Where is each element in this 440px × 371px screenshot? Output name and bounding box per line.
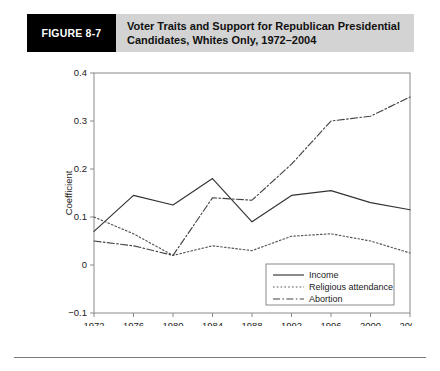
- legend-label-religious-attendance: Religious attendance: [309, 282, 393, 292]
- x-axis-tick-label: 1972: [83, 320, 104, 326]
- y-axis-tick-label: 0.1: [74, 211, 87, 222]
- series-line-abortion: [94, 97, 410, 255]
- figure-title: Voter Traits and Support for Republican …: [116, 14, 414, 52]
- series-line-religious-attendance: [94, 217, 410, 255]
- series-line-income: [94, 179, 410, 232]
- x-axis-tick-label: 2000: [360, 320, 381, 326]
- y-axis-title: Coefficient: [63, 170, 74, 215]
- x-axis-tick-label: 1992: [281, 320, 302, 326]
- figure-header: FIGURE 8-7 Voter Traits and Support for …: [27, 14, 414, 52]
- x-axis-tick-label: 1980: [162, 320, 183, 326]
- y-axis-tick-label: 0: [82, 259, 87, 270]
- y-axis-tick-label: 0.2: [74, 163, 87, 174]
- y-axis-tick-label: −0.1: [68, 307, 87, 318]
- legend-label-income: Income: [309, 270, 339, 280]
- line-chart: 0.40.30.20.10−0.119721976198019841988199…: [60, 64, 412, 326]
- legend-label-abortion: Abortion: [309, 294, 343, 304]
- x-axis-tick-label: 1988: [241, 320, 262, 326]
- x-axis-tick-label: 1976: [123, 320, 144, 326]
- x-axis-tick-label: 1984: [202, 320, 223, 326]
- footer-divider: [14, 357, 426, 358]
- x-axis-tick-label: 2004: [399, 320, 412, 326]
- chart-container: 0.40.30.20.10−0.119721976198019841988199…: [60, 64, 412, 326]
- y-axis-tick-label: 0.3: [74, 115, 87, 126]
- y-axis-tick-label: 0.4: [74, 67, 87, 78]
- figure-number-tag: FIGURE 8-7: [27, 14, 116, 52]
- x-axis-tick-label: 1996: [320, 320, 341, 326]
- figure-panel: FIGURE 8-7 Voter Traits and Support for …: [0, 0, 440, 371]
